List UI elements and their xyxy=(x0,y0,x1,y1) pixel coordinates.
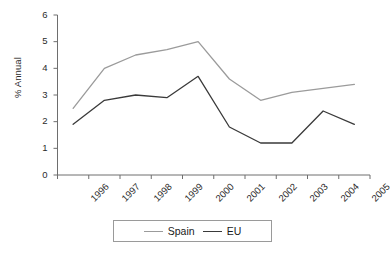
series-line-eu xyxy=(73,76,354,143)
legend-item-spain[interactable]: Spain xyxy=(144,225,195,237)
legend-item-label: EU xyxy=(227,225,242,237)
data-series-group xyxy=(73,42,354,143)
y-axis-tick-label: 2 xyxy=(34,115,48,126)
y-axis-label: % Annual xyxy=(12,43,23,113)
legend-line-swatch-icon xyxy=(203,231,222,232)
y-axis-tick-label: 5 xyxy=(34,35,48,46)
y-axis-tick-label: 3 xyxy=(34,89,48,100)
chart-legend: SpainEU xyxy=(113,220,272,242)
y-axis-tick-label: 4 xyxy=(34,62,48,73)
legend-line-swatch-icon xyxy=(144,231,163,232)
y-axis-tick-label: 0 xyxy=(34,169,48,180)
y-axis-tick-label: 6 xyxy=(34,9,48,20)
y-axis-tick-label: 1 xyxy=(34,142,48,153)
y-axis-ticks xyxy=(54,15,58,175)
x-axis-ticks xyxy=(58,175,371,179)
legend-item-eu[interactable]: EU xyxy=(203,225,242,237)
axes xyxy=(54,15,371,179)
legend-item-label: Spain xyxy=(168,225,195,237)
